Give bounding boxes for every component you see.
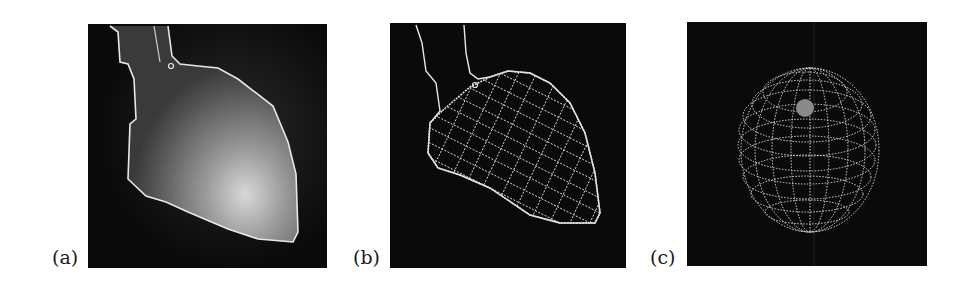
panel-b-heart-mesh: [390, 23, 626, 268]
sphere-mesh-graphic: [687, 22, 927, 266]
panel-a-label: (a): [52, 248, 78, 267]
heart-mesh-graphic: [390, 23, 626, 268]
mesh-contour: [416, 25, 600, 223]
panel-b-label: (b): [353, 248, 380, 267]
panel-c-sphere-mesh: [687, 22, 927, 266]
panel-a-heart-image: [88, 24, 327, 268]
panel-c-label: (c): [650, 248, 675, 267]
heart-image-graphic: [88, 24, 327, 268]
